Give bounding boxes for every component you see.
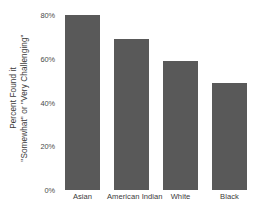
- bar[interactable]: [163, 61, 198, 190]
- bar[interactable]: [114, 39, 149, 190]
- x-axis-tick-label: American Indian: [107, 192, 156, 201]
- x-axis-tick-label: White: [156, 192, 205, 201]
- bar[interactable]: [65, 15, 100, 190]
- y-axis-tick-label: 0%: [33, 186, 55, 195]
- bar-slot: [205, 15, 254, 190]
- y-axis-tick-label: 60%: [33, 54, 55, 63]
- bar-chart: Percent Found it "Somewhat" or "Very Cha…: [0, 0, 261, 219]
- bar-slot: [58, 15, 107, 190]
- x-axis-tick-labels: AsianAmerican IndianWhiteBlack: [58, 192, 254, 210]
- x-axis-tick-label: Black: [205, 192, 254, 201]
- y-axis-tick-label: 40%: [33, 98, 55, 107]
- bar-slot: [107, 15, 156, 190]
- y-axis-title-line-2: "Somewhat" or "Very Challenging": [19, 34, 30, 161]
- bar-slot: [156, 15, 205, 190]
- x-axis-tick-label: Asian: [58, 192, 107, 201]
- bar[interactable]: [212, 83, 247, 190]
- y-axis-tick-label: 20%: [33, 142, 55, 151]
- y-axis-tick-label: 80%: [33, 11, 55, 20]
- y-axis-title-line-1: Percent Found it: [8, 34, 19, 161]
- plot-area: [58, 15, 254, 190]
- y-axis-tick-labels: 0%20%40%60%80%: [33, 0, 55, 219]
